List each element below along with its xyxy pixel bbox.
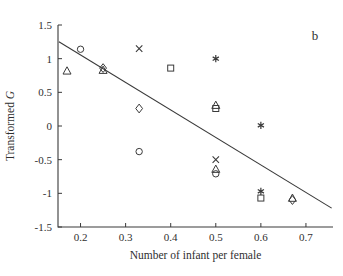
y-tick-label: 1.5 — [38, 19, 52, 31]
x-tick-label: 0.5 — [209, 231, 223, 243]
data-point-diamond — [289, 196, 296, 205]
x-axis-title: Number of infant per female — [130, 249, 262, 262]
y-tick-label: 0.5 — [38, 86, 52, 98]
regression-line — [59, 42, 332, 208]
y-tick-label: -0.5 — [35, 154, 53, 166]
y-tick-label: -1.5 — [35, 221, 53, 233]
x-tick-label: 0.6 — [254, 231, 268, 243]
data-markers — [63, 45, 296, 204]
data-point-triangle — [212, 165, 220, 172]
plot-canvas: 0.20.30.40.50.60.7-1.5-1-0.500.511.5Numb… — [0, 0, 343, 276]
y-axis-title: Transformed G — [4, 90, 16, 161]
x-tick-label: 0.4 — [164, 231, 178, 243]
y-tick-label: -1 — [43, 187, 52, 199]
data-point-circle — [77, 46, 83, 52]
data-point-cross — [213, 156, 219, 162]
data-point-triangle — [63, 67, 71, 74]
data-point-asterisk — [258, 188, 264, 195]
data-point-asterisk — [213, 55, 219, 62]
x-tick-label: 0.3 — [119, 231, 133, 243]
data-point-diamond — [136, 104, 143, 113]
y-tick-label: 1 — [47, 53, 53, 65]
panel-label: b — [312, 28, 319, 43]
data-point-circle — [213, 171, 219, 177]
data-point-circle — [136, 148, 142, 154]
data-point-asterisk — [258, 122, 264, 129]
data-point-square — [258, 195, 264, 201]
y-axis-title-text: Transformed G — [4, 90, 16, 161]
scatter-plot-figure: 0.20.30.40.50.60.7-1.5-1-0.500.511.5Numb… — [0, 0, 343, 276]
y-tick-label: 0 — [47, 120, 53, 132]
data-point-cross — [136, 45, 142, 51]
x-tick-label: 0.7 — [299, 231, 313, 243]
data-point-square — [168, 65, 174, 71]
x-tick-label: 0.2 — [74, 231, 88, 243]
